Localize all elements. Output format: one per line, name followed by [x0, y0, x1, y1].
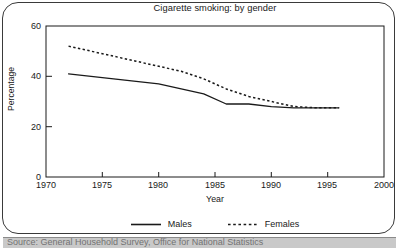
- source-text: Source: General Household Survey, Office…: [7, 237, 263, 247]
- legend-swatch-dotted-icon: [228, 221, 258, 228]
- data-series-layer: [69, 46, 339, 108]
- legend-item-females: Females: [228, 219, 300, 229]
- source-strip: Source: General Household Survey, Office…: [3, 237, 396, 248]
- series-line-females: [69, 46, 339, 108]
- legend-label-males: Males: [168, 219, 192, 229]
- x-axis-title: Year: [46, 194, 384, 204]
- legend-item-males: Males: [131, 219, 192, 229]
- legend-label-females: Females: [265, 219, 300, 229]
- chart-legend: Males Females: [46, 219, 384, 229]
- legend-swatch-solid-icon: [131, 221, 161, 228]
